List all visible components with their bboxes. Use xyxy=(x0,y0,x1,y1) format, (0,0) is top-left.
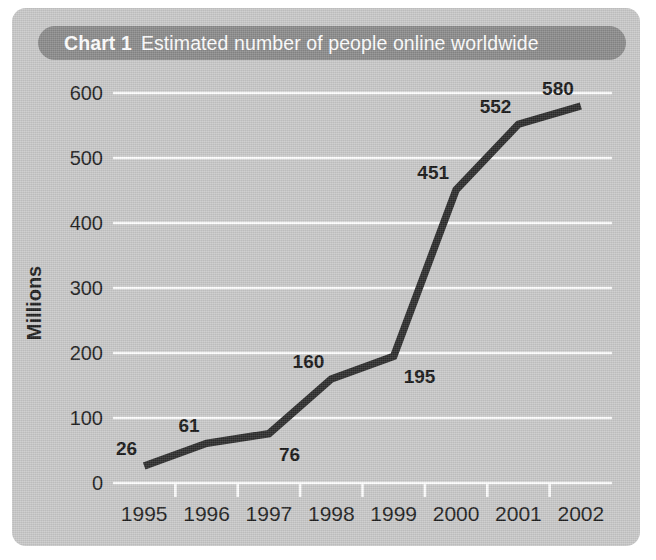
x-axis-tick-label: 1999 xyxy=(370,502,417,525)
y-axis-tick-label: 0 xyxy=(92,472,103,494)
plot-area: 0100200300400500600 19951996199719981999… xyxy=(12,8,640,546)
y-axis-tick-label: 100 xyxy=(70,407,103,429)
x-axis-tick-label: 1996 xyxy=(183,502,230,525)
data-value-label: 451 xyxy=(417,162,449,183)
x-axis-tick-labels: 19951996199719981999200020012002 xyxy=(121,502,604,525)
x-axis-tick-label: 1995 xyxy=(121,502,168,525)
chart-caption-label: Estimated number of people online worldw… xyxy=(141,32,539,54)
y-axis-tick-label: 500 xyxy=(70,147,103,169)
y-axis-tick-label: 300 xyxy=(70,277,103,299)
data-value-label: 160 xyxy=(293,351,325,372)
line-chart-svg: 0100200300400500600 19951996199719981999… xyxy=(12,8,640,546)
data-value-label: 195 xyxy=(404,366,436,387)
data-value-label: 552 xyxy=(480,96,512,117)
x-axis-tickmarks xyxy=(175,483,549,497)
y-axis-tick-labels: 0100200300400500600 xyxy=(70,82,103,494)
series-polyline xyxy=(144,106,581,466)
chart-title: Chart 1Estimated number of people online… xyxy=(38,32,539,55)
x-axis-tick-label: 1997 xyxy=(246,502,293,525)
x-axis-tick-label: 2001 xyxy=(495,502,542,525)
y-axis-title: Millions xyxy=(23,266,45,340)
y-axis-tick-label: 600 xyxy=(70,82,103,104)
chart-title-banner: Chart 1Estimated number of people online… xyxy=(38,26,626,60)
data-value-label: 76 xyxy=(279,444,300,465)
data-value-label: 26 xyxy=(116,438,137,459)
data-value-label: 580 xyxy=(542,78,574,99)
chart-card: Chart 1Estimated number of people online… xyxy=(12,8,640,546)
data-value-label: 61 xyxy=(178,415,200,436)
y-axis-tick-label: 400 xyxy=(70,212,103,234)
chart-number-label: Chart 1 xyxy=(64,32,132,54)
y-axis-tick-label: 200 xyxy=(70,342,103,364)
x-axis-tick-label: 1998 xyxy=(308,502,355,525)
x-axis-tick-label: 2002 xyxy=(557,502,604,525)
data-series-line xyxy=(144,106,581,466)
x-axis-tick-label: 2000 xyxy=(433,502,480,525)
y-axis-title-text: Millions xyxy=(23,266,45,340)
